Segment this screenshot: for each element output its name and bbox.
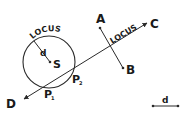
radius-label: d	[40, 48, 46, 58]
point-b	[122, 67, 125, 70]
point-a	[99, 27, 102, 30]
label-d-endpoint: D	[6, 97, 16, 111]
center-point-s	[49, 61, 52, 64]
label-b: B	[126, 63, 135, 77]
locus-diagram: LOCUS d S D C LOCUS A B P 1 P 2 d	[0, 0, 191, 123]
label-a: A	[96, 12, 106, 26]
line-locus-label: LOCUS	[108, 23, 138, 46]
distance-key-label: d	[162, 95, 168, 105]
circle-locus-label: LOCUS	[28, 24, 62, 41]
distance-key-end	[177, 105, 180, 108]
center-label: S	[53, 58, 61, 71]
label-p1-subscript: 1	[51, 95, 55, 101]
distance-key-start	[152, 105, 155, 108]
label-c-endpoint: C	[150, 17, 159, 31]
label-p2-subscript: 2	[79, 80, 83, 86]
